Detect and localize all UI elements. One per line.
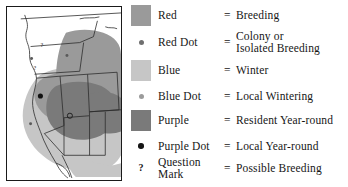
legend-term-red: Red bbox=[156, 9, 224, 21]
legend-desc-blue: Winter bbox=[236, 64, 268, 76]
legend-term-purple-dot: Purple Dot bbox=[156, 140, 224, 152]
legend-symbol-cell bbox=[126, 84, 156, 108]
legend-symbol-cell bbox=[126, 108, 156, 132]
question-mark-marker: ? bbox=[40, 42, 43, 48]
legend-row-red-dot: Red Dot = Colony or Isolated Breeding bbox=[126, 30, 348, 54]
legend-equals: = bbox=[224, 140, 236, 152]
red-dot-marker bbox=[29, 122, 32, 125]
question-mark-icon: ? bbox=[139, 163, 144, 173]
legend-equals: = bbox=[224, 64, 236, 76]
legend-row-purple-dot: Purple Dot = Local Year-round bbox=[126, 134, 348, 158]
purple-swatch-icon bbox=[131, 110, 151, 131]
legend-desc-purple: Resident Year-round bbox=[236, 114, 333, 126]
legend-desc-red: Breeding bbox=[236, 9, 279, 21]
legend-term-red-dot: Red Dot bbox=[156, 36, 224, 48]
legend-equals: = bbox=[224, 114, 236, 126]
legend-desc-blue-dot: Local Wintering bbox=[236, 90, 313, 102]
legend-term-purple: Purple bbox=[156, 114, 224, 126]
legend-term-blue: Blue bbox=[156, 64, 224, 76]
legend-symbol-cell bbox=[126, 58, 156, 82]
red-swatch-icon bbox=[131, 5, 151, 26]
legend-symbol-cell bbox=[126, 3, 156, 27]
legend-term-line: Question bbox=[158, 156, 224, 168]
legend: Red = Breeding Red Dot = Colony or Isola… bbox=[126, 0, 348, 187]
legend-row-blue: Blue = Winter bbox=[126, 58, 348, 82]
legend-desc-question-mark: Possible Breeding bbox=[236, 162, 322, 174]
legend-desc-line: Colony or bbox=[236, 30, 320, 42]
blue-dot-icon bbox=[139, 94, 144, 99]
red-dot-icon bbox=[139, 40, 144, 45]
red-dot-marker bbox=[65, 54, 68, 57]
legend-term-question-mark: Question Mark bbox=[156, 156, 224, 180]
legend-desc-purple-dot: Local Year-round bbox=[236, 140, 319, 152]
legend-desc-red-dot: Colony or Isolated Breeding bbox=[236, 30, 320, 54]
legend-symbol-cell bbox=[126, 30, 156, 54]
question-mark-marker: ? bbox=[34, 65, 37, 71]
legend-row-question-mark: ? Question Mark = Possible Breeding bbox=[126, 156, 348, 180]
range-map-svg: ? ? bbox=[7, 7, 121, 180]
legend-equals: = bbox=[224, 9, 236, 21]
blue-swatch-icon bbox=[131, 60, 151, 81]
range-map-panel: ? ? bbox=[6, 6, 122, 181]
legend-symbol-cell: ? bbox=[126, 156, 156, 180]
legend-term-line: Mark bbox=[158, 168, 224, 180]
legend-row-purple: Purple = Resident Year-round bbox=[126, 108, 348, 132]
legend-term-blue-dot: Blue Dot bbox=[156, 90, 224, 102]
legend-row-blue-dot: Blue Dot = Local Wintering bbox=[126, 84, 348, 108]
figure-root: ? ? Red = Breeding Red Dot = Colony or I… bbox=[0, 0, 348, 187]
legend-symbol-cell bbox=[126, 134, 156, 158]
purple-dot-icon bbox=[138, 143, 144, 149]
legend-row-red: Red = Breeding bbox=[126, 3, 348, 27]
legend-equals: = bbox=[224, 90, 236, 102]
legend-desc-line: Isolated Breeding bbox=[236, 42, 320, 54]
red-dot-marker bbox=[30, 57, 33, 60]
purple-dot-marker bbox=[38, 93, 43, 98]
legend-equals: = bbox=[224, 36, 236, 48]
legend-equals: = bbox=[224, 162, 236, 174]
